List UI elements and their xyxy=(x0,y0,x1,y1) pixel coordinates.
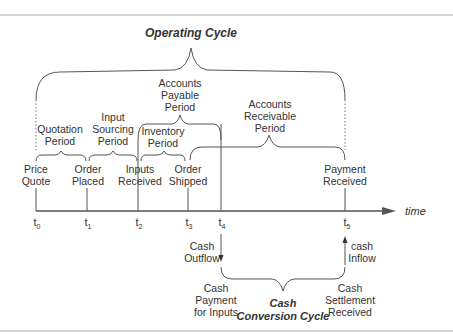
inventory-brace xyxy=(141,151,185,161)
cash-settlement-label: Cash Settlement Received xyxy=(325,282,375,318)
label-line: Sourcing xyxy=(92,123,133,135)
input-sourcing-brace xyxy=(89,151,137,161)
label-line: Price xyxy=(22,163,51,175)
label-line: Received xyxy=(323,175,367,187)
tick-t4: t4 xyxy=(219,216,226,230)
label-line: Accounts xyxy=(244,98,296,110)
tick-sub: 5 xyxy=(347,223,351,230)
tick-sub: 0 xyxy=(37,223,41,230)
cash-outflow-label: Cash Outflow xyxy=(184,240,220,264)
cash-conversion-cycle-label: Cash Conversion Cycle xyxy=(237,297,330,323)
label-line: Order xyxy=(169,163,208,175)
label-line: Period xyxy=(37,135,83,147)
label-line: Cash xyxy=(237,297,330,310)
event-inputs-received: Inputs Received xyxy=(118,163,162,187)
label-line: for Inputs xyxy=(194,306,238,318)
label-line: Settlement xyxy=(325,294,375,306)
time-arrow-icon xyxy=(382,207,396,215)
accounts-receivable-label: Accounts Receivable Period xyxy=(244,98,296,134)
label-line: Outflow xyxy=(184,252,220,264)
label-line: Quote xyxy=(22,175,51,187)
input-sourcing-period-label: Input Sourcing Period xyxy=(92,111,133,147)
cash-inflow-label: cash Inflow xyxy=(348,240,375,264)
label-line: Period xyxy=(158,101,201,113)
label-line: Inventory xyxy=(141,125,184,137)
tick-t2: t2 xyxy=(136,216,143,230)
accounts-receivable-brace xyxy=(190,135,345,160)
tick-t1: t1 xyxy=(85,216,92,230)
label-line: Conversion Cycle xyxy=(237,310,330,323)
tick-sub: 2 xyxy=(139,223,143,230)
quotation-brace xyxy=(36,151,86,161)
label-line: Receivable xyxy=(244,110,296,122)
tick-sub: 1 xyxy=(88,223,92,230)
label-line: Payment xyxy=(194,294,238,306)
label-line: Period xyxy=(141,137,184,149)
label-line: Cash xyxy=(325,282,375,294)
label-line: Accounts xyxy=(158,77,201,89)
label-line: Period xyxy=(92,135,133,147)
event-price-quote: Price Quote xyxy=(22,163,51,187)
time-axis-label: time xyxy=(405,205,426,217)
label-line: cash xyxy=(348,240,375,252)
label-line: Cash xyxy=(194,282,238,294)
inventory-period-label: Inventory Period xyxy=(141,125,184,149)
tick-t0: t0 xyxy=(34,216,41,230)
label-line: Placed xyxy=(72,175,104,187)
accounts-payable-label: Accounts Payable Period xyxy=(158,77,201,113)
event-order-shipped: Order Shipped xyxy=(169,163,208,187)
tick-sub: 3 xyxy=(189,223,193,230)
label-line: Period xyxy=(244,122,296,134)
quotation-period-label: Quotation Period xyxy=(37,123,83,147)
label-line: Payable xyxy=(158,89,201,101)
tick-sub: 4 xyxy=(222,223,226,230)
cash-payment-label: Cash Payment for Inputs xyxy=(194,282,238,318)
label-line: Quotation xyxy=(37,123,83,135)
tick-t3: t3 xyxy=(186,216,193,230)
event-order-placed: Order Placed xyxy=(72,163,104,187)
label-line: Inflow xyxy=(348,252,375,264)
arrow-up-icon xyxy=(343,236,348,243)
label-line: Payment xyxy=(323,163,367,175)
label-line: Input xyxy=(92,111,133,123)
label-line: Shipped xyxy=(169,175,208,187)
label-line: Inputs xyxy=(118,163,162,175)
operating-cycle-title: Operating Cycle xyxy=(145,27,237,39)
label-line: Order xyxy=(72,163,104,175)
event-payment-received: Payment Received xyxy=(323,163,367,187)
label-line: Cash xyxy=(184,240,220,252)
label-line: Received xyxy=(325,306,375,318)
tick-t5: t5 xyxy=(344,216,351,230)
label-line: Received xyxy=(118,175,162,187)
